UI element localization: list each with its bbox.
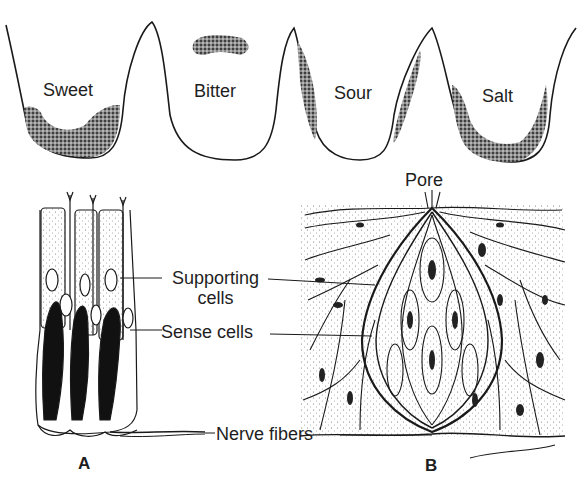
- panel-a-illustration: [36, 192, 205, 437]
- label-sense-cells: Sense cells: [161, 322, 253, 342]
- label-pore: Pore: [405, 170, 443, 190]
- label-supporting-line2: cells: [163, 288, 268, 308]
- label-bitter: Bitter: [194, 81, 236, 101]
- panel-letter-b: B: [425, 456, 437, 476]
- sweet-zone: [24, 105, 120, 157]
- label-supporting-line1: Supporting: [163, 268, 268, 288]
- label-sweet: Sweet: [43, 80, 93, 100]
- bitter-zone: [193, 35, 249, 55]
- diagram-canvas: [0, 0, 579, 478]
- sour-zone-left: [298, 42, 317, 140]
- panel-b-illustration: [300, 190, 565, 458]
- label-supporting-cells: Supporting cells: [163, 268, 268, 308]
- label-sour: Sour: [334, 83, 372, 103]
- label-nerve-fibers: Nerve fibers: [216, 424, 313, 444]
- label-salt: Salt: [482, 86, 513, 106]
- panel-letter-a: A: [78, 454, 90, 474]
